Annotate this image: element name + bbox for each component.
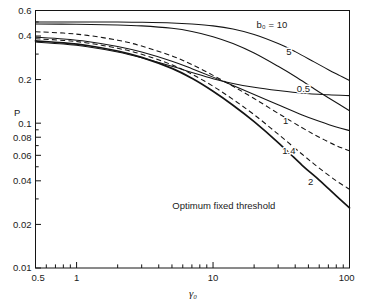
- curve-label: 1: [283, 115, 288, 126]
- x-axis-tick-labels: 0.5110100: [32, 272, 355, 283]
- y-tick-label: 0.6: [18, 5, 31, 16]
- tick-marks-group: [36, 11, 350, 269]
- chart-page: 0.60.40.20.10.080.060.040.020.01 0.51101…: [0, 0, 371, 306]
- log-log-chart: 0.60.40.20.10.080.060.040.020.01 0.51101…: [0, 0, 371, 306]
- y-tick-label: 0.06: [13, 150, 32, 161]
- data-curve: [36, 24, 350, 111]
- y-tick-label: 0.4: [18, 30, 31, 41]
- plot-frame: [36, 11, 350, 269]
- x-tick-label: 100: [339, 272, 355, 283]
- annotation-label: Optimum fixed threshold: [172, 200, 275, 211]
- x-tick-label: 10: [208, 272, 219, 283]
- curve-label: 5: [286, 46, 291, 57]
- y-tick-label: 0.1: [18, 118, 31, 129]
- y-tick-label: 0.01: [13, 262, 32, 273]
- y-axis-tick-labels: 0.60.40.20.10.080.060.040.020.01: [13, 5, 32, 274]
- data-curve: [36, 22, 350, 81]
- curve-label: 1.4: [282, 145, 295, 156]
- x-tick-label: 0.5: [32, 272, 45, 283]
- curve-label: 2: [308, 176, 313, 187]
- x-axis-title: γ₀: [189, 287, 197, 299]
- data-curve: [36, 41, 350, 208]
- y-tick-label: 0.2: [18, 74, 31, 85]
- curves-group: [36, 22, 350, 208]
- y-tick-label: 0.02: [13, 219, 32, 230]
- curve-label: b₀ = 10: [257, 19, 288, 30]
- y-tick-label: 0.04: [13, 175, 32, 186]
- y-tick-label: 0.08: [13, 132, 32, 143]
- y-axis-title: P: [14, 107, 20, 118]
- x-tick-label: 1: [74, 272, 79, 283]
- curve-labels-group: b₀ = 10b₀ = 10550.50.5111.41.422: [257, 19, 314, 187]
- curve-label: 0.5: [297, 83, 310, 94]
- annotations-group: Optimum fixed thresholdOptimum fixed thr…: [172, 200, 275, 211]
